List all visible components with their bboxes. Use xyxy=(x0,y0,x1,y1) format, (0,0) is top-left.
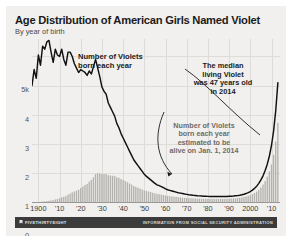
callout-arrowhead xyxy=(167,172,172,177)
chart-footer: FIVETHIRTYEIGHT INFORMATION FROM SOCIAL … xyxy=(15,217,277,228)
x-axis-labels: 1900'10'20'30'40'50'60'70'80'902000'10 xyxy=(32,204,280,216)
chart-subtitle: By year of birth xyxy=(15,27,65,36)
chart-card: Age Distribution of American Girls Named… xyxy=(6,6,286,236)
x-tick-label: '80 xyxy=(203,204,213,213)
x-tick-label: '70 xyxy=(182,204,192,213)
x-tick-label: '30 xyxy=(97,204,107,213)
x-tick-label: '90 xyxy=(224,204,234,213)
x-tick-label: 2000 xyxy=(242,204,258,213)
y-tick-label: 1 xyxy=(25,201,29,210)
y-tick-label: 4 xyxy=(25,114,29,123)
gridline-horizontal xyxy=(32,202,280,203)
page-title: Age Distribution of American Girls Named… xyxy=(15,14,260,26)
y-tick-label: 2 xyxy=(25,172,29,181)
y-tick-label: 3 xyxy=(25,143,29,152)
annotation-alive-estimate: Number of Violets born each year estimat… xyxy=(158,122,250,156)
source-label: INFORMATION FROM SOCIAL SECURITY ADMINIS… xyxy=(143,220,273,225)
x-tick-label: '20 xyxy=(76,204,86,213)
annotation-births-line-2: born each year xyxy=(78,62,143,71)
y-tick-label: 5k xyxy=(21,85,29,94)
annotation-median-age: The median living Violet was 47 years ol… xyxy=(181,62,265,97)
annotation-median-4: in 2014 xyxy=(181,88,265,97)
annotation-births-line: Number of Violets born each year xyxy=(78,53,143,71)
brand: FIVETHIRTYEIGHT xyxy=(19,220,67,226)
x-tick-label: 1900 xyxy=(30,204,46,213)
brand-label: FIVETHIRTYEIGHT xyxy=(25,220,67,225)
x-tick-label: '50 xyxy=(140,204,150,213)
flag-logo-icon xyxy=(19,220,23,226)
annotation-alive-4: alive on Jan. 1, 2014 xyxy=(158,147,250,155)
x-tick-label: '10 xyxy=(267,204,277,213)
x-tick-label: '10 xyxy=(55,204,65,213)
x-tick-label: '40 xyxy=(118,204,128,213)
x-tick-label: '60 xyxy=(161,204,171,213)
y-axis-labels: 012345k xyxy=(6,39,32,202)
y-tick-label: 0 xyxy=(25,231,29,237)
